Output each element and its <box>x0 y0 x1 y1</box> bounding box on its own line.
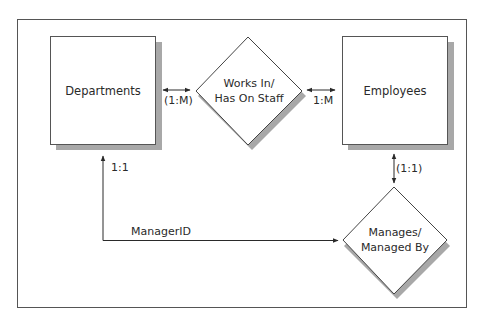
entity-label: Departments <box>65 84 141 98</box>
cardinality-employees-manages: (1:1) <box>396 162 422 175</box>
er-diagram: Departments Employees Works In/ Has On S… <box>0 0 500 328</box>
cardinality-works-in-employees: 1:M <box>313 94 333 107</box>
connector-label-manager-id: ManagerID <box>131 225 191 238</box>
entity-departments[interactable]: Departments <box>51 37 163 151</box>
relationship-label-line2: Has On Staff <box>215 92 284 105</box>
entity-employees[interactable]: Employees <box>343 37 455 151</box>
relationship-label-line2: Managed By <box>361 241 430 254</box>
entity-label: Employees <box>364 84 427 98</box>
relationship-label-line1: Works In/ <box>223 77 274 90</box>
relationship-label-line1: Manages/ <box>368 226 421 239</box>
relationship-manages[interactable]: Manages/ Managed By <box>343 187 450 299</box>
cardinality-departments-works-in: (1:M) <box>164 94 193 107</box>
cardinality-departments-manager: 1:1 <box>111 161 129 174</box>
relationship-works-in[interactable]: Works In/ Has On Staff <box>196 37 306 150</box>
relationship-diamond <box>196 37 302 145</box>
